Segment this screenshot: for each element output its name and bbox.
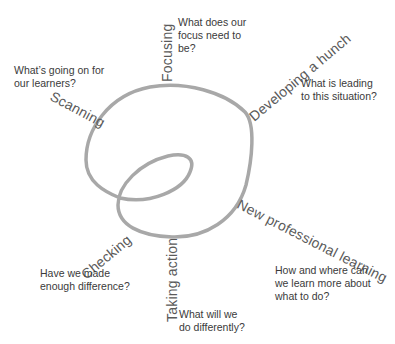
taking-action-question: What will we do differently?: [179, 308, 245, 334]
question-line: What does our: [178, 16, 246, 29]
spiral-of-inquiry-diagram: What’s going on for our learners? Scanni…: [0, 0, 395, 344]
question-line: How and where can: [275, 264, 371, 277]
question-line: our learners?: [14, 77, 104, 90]
developing-a-hunch-question: What is leading to this situation?: [301, 77, 377, 103]
focusing-question: What does our focus need to be?: [178, 16, 246, 55]
scanning-question: What’s going on for our learners?: [14, 64, 104, 90]
question-line: we learn more about: [275, 277, 371, 290]
question-line: What is leading: [301, 77, 377, 90]
new-professional-learning-question: How and where can we learn more about wh…: [275, 264, 371, 303]
question-line: be?: [178, 42, 246, 55]
question-line: enough difference?: [40, 280, 130, 293]
question-line: focus need to: [178, 29, 246, 42]
question-line: Have we made: [40, 267, 130, 280]
checking-question: Have we made enough difference?: [40, 267, 130, 293]
question-line: What will we: [179, 308, 245, 321]
stage-label-taking-action: Taking action: [164, 238, 180, 322]
question-line: what to do?: [275, 290, 371, 303]
question-line: What’s going on for: [14, 64, 104, 77]
stage-label-focusing: Focusing: [159, 24, 175, 82]
question-line: do differently?: [179, 321, 245, 334]
question-line: to this situation?: [301, 90, 377, 103]
